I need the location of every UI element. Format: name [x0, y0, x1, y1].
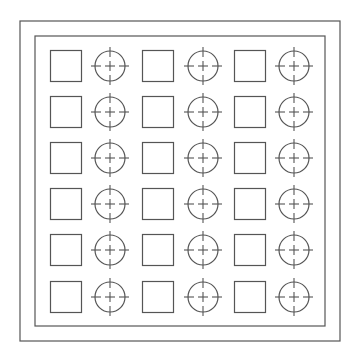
- inner-frame: [35, 36, 325, 326]
- square-feature: [143, 235, 174, 266]
- square-feature: [143, 97, 174, 128]
- circle-target-icon: [184, 93, 222, 131]
- circle-target-icon: [91, 47, 129, 85]
- circle-target-icon: [275, 278, 313, 316]
- square-feature: [143, 282, 174, 313]
- circle-target-icon: [275, 231, 313, 269]
- square-feature: [51, 189, 82, 220]
- circle-target-icon: [91, 278, 129, 316]
- circle-target-icon: [275, 93, 313, 131]
- circle-target-icon: [91, 185, 129, 223]
- square-feature: [235, 51, 266, 82]
- feature-grid: [51, 47, 314, 316]
- circle-target-icon: [184, 185, 222, 223]
- circle-target-icon: [184, 139, 222, 177]
- circle-target-icon: [275, 185, 313, 223]
- outer-frame: [20, 21, 340, 341]
- circle-target-icon: [275, 47, 313, 85]
- technical-drawing: [0, 0, 359, 360]
- square-feature: [235, 189, 266, 220]
- circle-target-icon: [184, 231, 222, 269]
- square-feature: [51, 51, 82, 82]
- square-feature: [235, 143, 266, 174]
- circle-target-icon: [184, 47, 222, 85]
- square-feature: [235, 282, 266, 313]
- square-feature: [235, 235, 266, 266]
- square-feature: [143, 143, 174, 174]
- circle-target-icon: [91, 93, 129, 131]
- square-feature: [51, 97, 82, 128]
- circle-target-icon: [184, 278, 222, 316]
- square-feature: [143, 189, 174, 220]
- square-feature: [51, 143, 82, 174]
- square-feature: [51, 235, 82, 266]
- circle-target-icon: [275, 139, 313, 177]
- circle-target-icon: [91, 231, 129, 269]
- square-feature: [235, 97, 266, 128]
- square-feature: [51, 282, 82, 313]
- circle-target-icon: [91, 139, 129, 177]
- square-feature: [143, 51, 174, 82]
